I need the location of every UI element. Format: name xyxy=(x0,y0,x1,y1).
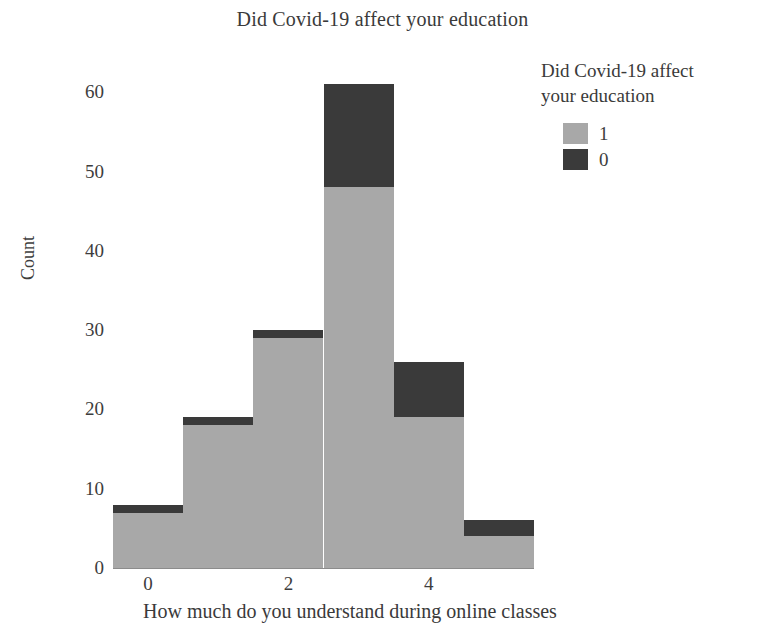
y-tick-label: 50 xyxy=(60,162,104,181)
y-tick-label: 10 xyxy=(60,479,104,498)
legend-title-line-2: your education xyxy=(541,83,741,108)
bar-group xyxy=(464,520,534,568)
bar-segment-series-0 xyxy=(183,417,253,425)
bar-segment-series-1 xyxy=(253,338,323,568)
bar-segment-series-1 xyxy=(464,536,534,568)
y-axis-title: Count xyxy=(18,236,39,280)
x-tick-label: 4 xyxy=(409,574,449,593)
x-tick-label: 2 xyxy=(268,574,308,593)
chart-title: Did Covid-19 affect your education xyxy=(0,8,765,31)
y-tick-label: 30 xyxy=(60,320,104,339)
bar-group xyxy=(324,84,394,568)
bar-segment-series-1 xyxy=(394,417,464,568)
bar-segment-series-1 xyxy=(113,513,183,569)
bar-segment-series-1 xyxy=(324,187,394,568)
x-axis-title: How much do you understand during online… xyxy=(0,600,700,623)
legend-label: 0 xyxy=(599,150,609,169)
legend-label: 1 xyxy=(599,124,609,143)
bar-group xyxy=(394,362,464,568)
bars-layer xyxy=(113,78,533,568)
bar-segment-series-0 xyxy=(253,330,323,338)
plot-area xyxy=(113,78,533,568)
legend-title-line-1: Did Covid-19 affect xyxy=(541,58,741,83)
legend-entry[interactable]: 0 xyxy=(563,146,761,172)
y-tick-label: 0 xyxy=(60,558,104,577)
y-tick-label: 20 xyxy=(60,399,104,418)
bar-group xyxy=(253,330,323,568)
x-tick-label: 0 xyxy=(128,574,168,593)
legend-swatch-icon xyxy=(563,123,588,144)
bar-segment-series-0 xyxy=(464,520,534,536)
bar-segment-series-1 xyxy=(183,425,253,568)
y-tick-label: 60 xyxy=(60,82,104,101)
y-axis-tick-labels: 0102030405060 xyxy=(58,0,104,640)
chart-figure: Did Covid-19 affect your education 01020… xyxy=(0,0,765,640)
bar-segment-series-0 xyxy=(113,505,183,513)
legend-entry[interactable]: 1 xyxy=(563,120,761,146)
x-axis-line xyxy=(113,568,534,569)
y-tick-label: 40 xyxy=(60,241,104,260)
legend-entries: 10 xyxy=(563,120,761,172)
bar-group xyxy=(113,505,183,568)
legend-swatch-icon xyxy=(563,149,588,170)
legend-title: Did Covid-19 affect your education xyxy=(541,58,741,108)
bar-segment-series-0 xyxy=(394,362,464,418)
bar-group xyxy=(183,417,253,568)
bar-segment-series-0 xyxy=(324,84,394,187)
legend: Did Covid-19 affect your education 10 xyxy=(541,58,761,172)
